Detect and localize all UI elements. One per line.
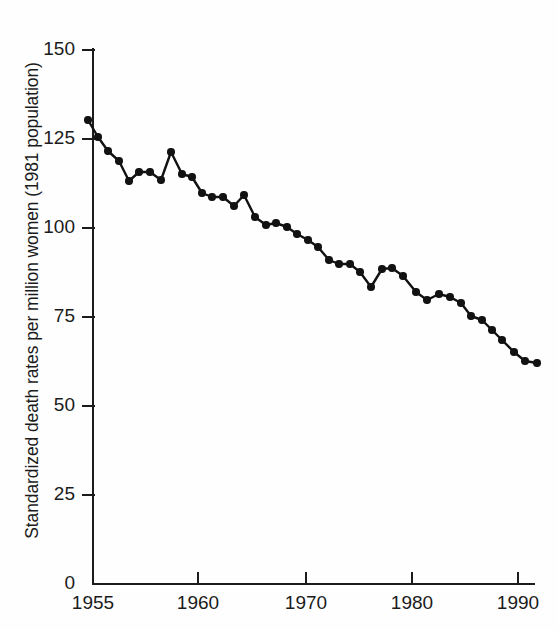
data-point <box>84 116 91 123</box>
data-point <box>388 264 395 271</box>
data-point <box>146 168 153 175</box>
data-point <box>356 268 363 275</box>
data-point <box>510 348 517 355</box>
data-point <box>498 336 505 343</box>
data-point <box>167 148 174 155</box>
data-point <box>94 133 101 140</box>
data-point <box>208 193 215 200</box>
data-point <box>335 260 342 267</box>
data-point <box>304 236 311 243</box>
series-polyline <box>88 120 537 363</box>
data-point <box>135 168 142 175</box>
data-point <box>272 219 279 226</box>
data-point <box>240 191 247 198</box>
data-point <box>104 147 111 154</box>
data-point <box>283 223 290 230</box>
data-point <box>178 170 185 177</box>
data-point <box>157 176 164 183</box>
data-point <box>478 316 485 323</box>
data-point <box>457 299 464 306</box>
data-point <box>521 357 528 364</box>
data-point <box>346 260 353 267</box>
data-point <box>219 193 226 200</box>
data-point <box>412 288 419 295</box>
data-point <box>293 230 300 237</box>
figure-root: Standardized death rates per million wom… <box>0 0 558 630</box>
data-point <box>262 221 269 228</box>
data-point <box>314 243 321 250</box>
data-point <box>230 202 237 209</box>
data-point <box>125 177 132 184</box>
data-point <box>115 157 122 164</box>
data-point <box>188 173 195 180</box>
data-point <box>533 359 540 366</box>
data-point <box>378 265 385 272</box>
data-point <box>399 272 406 279</box>
data-point <box>198 189 205 196</box>
data-point <box>423 296 430 303</box>
plot-area: 025507510012515019551960197019801990 <box>0 0 558 630</box>
data-point <box>367 283 374 290</box>
data-point <box>251 213 258 220</box>
data-point <box>435 290 442 297</box>
data-point <box>488 326 495 333</box>
data-point <box>467 312 474 319</box>
data-point <box>325 256 332 263</box>
data-point <box>446 293 453 300</box>
